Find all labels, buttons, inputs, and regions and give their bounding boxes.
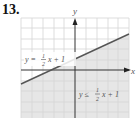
x-axis-label: x	[130, 66, 135, 76]
inequality-lhs: y ≤	[78, 90, 90, 99]
inequality-rhs: x + 1	[101, 90, 119, 99]
equation-numerator: 1	[42, 53, 45, 59]
y-axis-label: y	[72, 6, 77, 16]
equation-denominator: 2	[42, 61, 45, 67]
equation-lhs: y =	[24, 55, 36, 64]
inequality-graph: y x y = 1 2 x + 1 y ≤ 1 2 x + 1	[0, 0, 136, 118]
inequality-numerator: 1	[96, 87, 99, 93]
inequality-denominator: 2	[96, 96, 99, 102]
equation-rhs: x + 1	[47, 55, 65, 64]
y-axis-arrow-icon	[73, 18, 78, 25]
